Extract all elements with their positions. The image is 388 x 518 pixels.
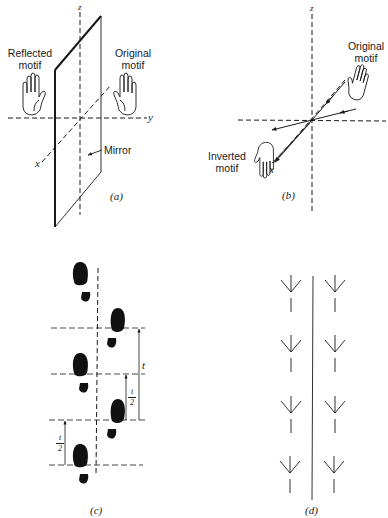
frac-num: t bbox=[131, 387, 133, 396]
reflected-motif-label: Reflected motif bbox=[5, 47, 55, 71]
axis-x-label-b: x bbox=[269, 164, 274, 175]
bird-track bbox=[324, 456, 344, 493]
reflected-label-line1: Reflected bbox=[5, 47, 55, 59]
bird-track bbox=[280, 456, 300, 493]
footprint-left bbox=[73, 262, 90, 302]
original-hand-icon bbox=[114, 73, 136, 115]
bird-track bbox=[281, 335, 301, 372]
axis-z-label-b: z bbox=[310, 3, 314, 14]
inverted-label-line2: motif bbox=[204, 162, 250, 174]
original-label-line2: motif bbox=[344, 52, 388, 64]
original-label-line2: motif bbox=[110, 59, 156, 71]
frac-den: 2 bbox=[130, 398, 134, 407]
panel-d-mirror-birdtracks bbox=[280, 275, 345, 500]
footprint-left bbox=[73, 444, 88, 484]
half-t-label-right: t 2 bbox=[128, 388, 136, 407]
mirror-edge-top bbox=[55, 16, 101, 70]
bird-track bbox=[281, 275, 301, 312]
mirror-label: Mirror bbox=[104, 144, 131, 156]
bird-track bbox=[281, 396, 301, 433]
caption-b: (b) bbox=[282, 189, 295, 201]
caption-a: (a) bbox=[110, 190, 123, 202]
footprint-right bbox=[107, 399, 125, 439]
mirror-line bbox=[312, 276, 313, 500]
original-label-line1: Original bbox=[110, 47, 156, 59]
original-motif-label: Original motif bbox=[110, 47, 156, 71]
t-label: t bbox=[142, 360, 145, 371]
frac-num: t bbox=[59, 433, 61, 442]
original-hand-icon bbox=[343, 62, 371, 101]
mirror-pointer bbox=[88, 150, 102, 155]
reflected-label-line2: motif bbox=[5, 59, 55, 71]
axis-x-label-a: x bbox=[35, 158, 40, 169]
panel-a-mirror-reflection bbox=[8, 12, 147, 227]
original-label-line1: Original bbox=[344, 40, 388, 52]
caption-c: (c) bbox=[90, 504, 102, 516]
glide-axis bbox=[96, 268, 98, 476]
axis-z-label-a: z bbox=[78, 2, 82, 13]
caption-d: (d) bbox=[305, 504, 318, 516]
bird-track bbox=[325, 396, 345, 433]
inverted-label-line1: Inverted bbox=[204, 150, 250, 162]
original-motif-label-b: Original motif bbox=[344, 40, 388, 64]
reflected-hand-icon bbox=[23, 73, 45, 115]
bird-track bbox=[325, 275, 345, 312]
mirror-plane bbox=[55, 16, 101, 227]
footprint-left bbox=[73, 353, 88, 393]
bird-track bbox=[325, 335, 345, 372]
half-t-label-left: t 2 bbox=[56, 434, 64, 453]
inverted-motif-label: Inverted motif bbox=[204, 150, 250, 174]
axis-y-label-a: y bbox=[148, 112, 153, 123]
frac-den: 2 bbox=[58, 444, 62, 453]
